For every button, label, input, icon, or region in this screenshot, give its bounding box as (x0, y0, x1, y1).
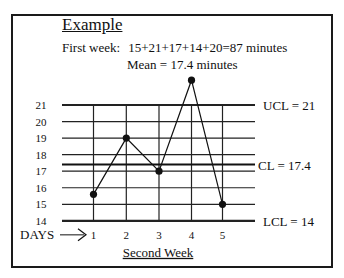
y-tick-label: 14 (36, 215, 48, 227)
days-label: DAYS (20, 227, 54, 242)
x-axis-title: Second Week (123, 245, 194, 260)
cl-label: CL = 17.4 (258, 158, 311, 173)
x-tick-label: 5 (220, 229, 226, 241)
data-line (94, 80, 223, 204)
y-tick-label: 15 (36, 198, 48, 210)
x-tick-label: 3 (156, 229, 162, 241)
data-point-day-5 (219, 201, 226, 208)
x-tick-label: 1 (91, 229, 97, 241)
y-tick-label: 19 (36, 132, 48, 144)
data-point-day-2 (123, 135, 130, 142)
y-tick-label: 18 (36, 149, 48, 161)
y-tick-label: 16 (36, 182, 48, 194)
y-tick-label: 20 (36, 116, 48, 128)
y-tick-label: 21 (36, 99, 47, 111)
x-tick-label: 4 (189, 229, 195, 241)
x-tick-label: 2 (124, 229, 130, 241)
ucl-label: UCL = 21 (263, 98, 315, 113)
lcl-label: LCL = 14 (263, 214, 314, 229)
data-point-day-1 (90, 191, 97, 198)
data-point-day-3 (155, 168, 162, 175)
y-tick-label: 17 (36, 165, 48, 177)
data-point-day-4 (188, 77, 195, 84)
control-chart: 1415161718192021UCL = 21CL = 17.4LCL = 1… (0, 0, 344, 278)
